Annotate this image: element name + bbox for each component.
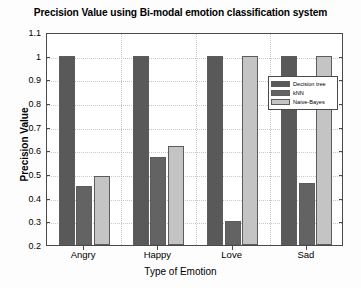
gridline-horizontal: [47, 152, 342, 153]
x-axis-tick-mark: [83, 246, 84, 250]
y-axis-tick-mark: [339, 222, 343, 223]
chart-figure: Precision Value using Bi-modal emotion c…: [0, 0, 361, 288]
legend-label: Decision tree: [293, 81, 326, 87]
bar: [76, 186, 92, 245]
bar: [59, 56, 75, 245]
y-axis-tick-label: 0.7: [1, 123, 41, 133]
y-axis-tick-mark: [339, 151, 343, 152]
gridline-horizontal: [47, 176, 342, 177]
legend-color-swatch: [271, 81, 290, 87]
y-axis-tick-mark: [339, 57, 343, 58]
gridline-vertical: [196, 34, 197, 245]
x-axis-tick-mark: [157, 246, 158, 250]
legend-item: Decision tree: [271, 80, 335, 88]
y-axis-tick-label: 0.9: [1, 75, 41, 85]
y-axis-tick-mark: [339, 175, 343, 176]
legend-color-swatch: [271, 99, 290, 105]
y-axis-tick-label: 0.5: [1, 170, 41, 180]
y-axis-tick-mark: [46, 199, 50, 200]
legend-label: Naive-Bayes: [293, 99, 325, 105]
x-axis-tick-mark: [306, 246, 307, 250]
gridline-vertical: [121, 34, 122, 245]
bar: [242, 56, 258, 245]
y-axis-tick-label: 0.6: [1, 146, 41, 156]
legend-label: kNN: [293, 90, 304, 96]
y-axis-tick-mark: [46, 151, 50, 152]
legend-item: kNN: [271, 89, 335, 97]
bar: [94, 176, 110, 245]
chart-legend: Decision treekNNNaive-Bayes: [268, 76, 338, 110]
bar: [133, 56, 149, 245]
y-axis-tick-label: 0.2: [1, 241, 41, 251]
y-axis-tick-mark: [46, 80, 50, 81]
y-axis-tick-mark: [339, 128, 343, 129]
legend-item: Naive-Bayes: [271, 98, 335, 106]
x-axis-tick-mark: [232, 246, 233, 250]
x-axis-tick-label: Sad: [297, 249, 314, 260]
bar: [225, 221, 241, 245]
y-axis-tick-mark: [339, 104, 343, 105]
x-axis-tick-label: Love: [221, 249, 242, 260]
y-axis-tick-label: 0.3: [1, 217, 41, 227]
bar: [168, 146, 184, 245]
y-axis-tick-label: 1: [1, 52, 41, 62]
y-axis-tick-mark: [46, 104, 50, 105]
gridline-horizontal: [47, 58, 342, 59]
y-axis-tick-mark: [46, 222, 50, 223]
y-axis-tick-mark: [46, 57, 50, 58]
y-axis-tick-mark: [339, 199, 343, 200]
y-axis-tick-label: 1.1: [1, 28, 41, 38]
legend-color-swatch: [271, 90, 290, 96]
x-axis-label: Type of Emotion: [0, 266, 361, 277]
gridline-horizontal: [47, 129, 342, 130]
x-axis-tick-label: Happy: [144, 249, 171, 260]
chart-title: Precision Value using Bi-modal emotion c…: [0, 7, 361, 18]
bar: [150, 157, 166, 245]
y-axis-tick-label: 0.8: [1, 99, 41, 109]
y-axis-tick-mark: [46, 175, 50, 176]
y-axis-tick-mark: [339, 80, 343, 81]
bar: [299, 183, 315, 245]
bar: [207, 56, 223, 245]
y-axis-tick-label: 0.4: [1, 194, 41, 204]
x-axis-tick-label: Angry: [71, 249, 96, 260]
plot-area: [46, 33, 343, 246]
gridline-vertical: [270, 34, 271, 245]
y-axis-tick-mark: [46, 128, 50, 129]
